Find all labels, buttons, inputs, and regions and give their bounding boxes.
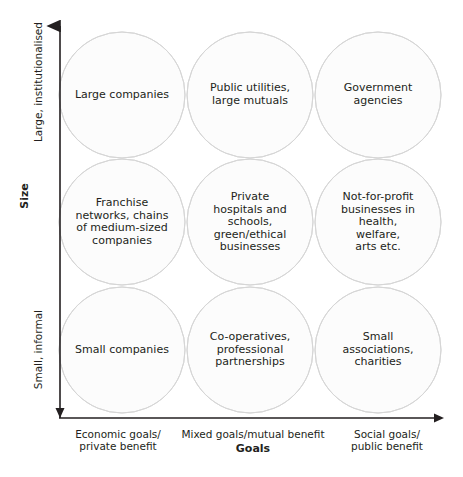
x-axis-mid-label: Mixed goals/mutual benefit	[178, 428, 328, 440]
y-axis-top-label: Large, institutionalised	[20, 22, 170, 46]
x-axis-right-label: Social goals/ public benefit	[332, 428, 442, 452]
y-axis-bottom-label: Small, informal	[20, 310, 170, 334]
venn-matrix-diagram: Large companies Public utilities, large …	[0, 0, 463, 477]
circles-group	[59, 32, 441, 413]
x-axis-arrowhead	[434, 414, 444, 423]
y-axis-top-label-text: Large, institutionalised	[32, 22, 44, 142]
venn-circles-canvas	[0, 0, 463, 477]
y-axis-down-arrowhead	[56, 408, 65, 418]
y-axis-title-text: Size	[18, 183, 31, 209]
x-axis-left-label: Economic goals/ private benefit	[58, 428, 178, 452]
x-axis-title: Goals	[178, 442, 328, 455]
y-axis-bottom-label-text: Small, informal	[32, 310, 44, 389]
